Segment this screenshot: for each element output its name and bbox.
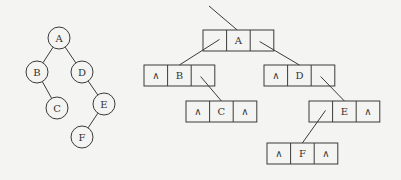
tree-edge-a-b [43, 47, 53, 63]
tree-node-label: E [100, 99, 107, 110]
rchild-null-symbol: ∧ [364, 106, 371, 117]
tree-node-b: B [26, 61, 48, 83]
data-field: A [234, 35, 243, 46]
tree-node-c: C [46, 97, 68, 119]
tree-edges [42, 47, 98, 128]
tree-node-label: C [53, 103, 61, 114]
lchild-null-symbol: ∧ [152, 70, 159, 81]
tree-node-d: D [71, 61, 93, 83]
root-pointer-line [209, 6, 237, 30]
tree-node-label: F [79, 132, 86, 143]
tree-edge-b-c [42, 82, 51, 99]
list-node-b: B∧ [144, 65, 215, 86]
tree-nodes: ABDCEF [26, 27, 115, 148]
rchild-pointer-a-d [260, 42, 300, 65]
tree-node-a: A [48, 27, 70, 49]
list-node-a: A [203, 30, 274, 51]
data-field: E [341, 106, 348, 117]
rchild-null-symbol: ∧ [322, 148, 329, 159]
lchild-null-symbol: ∧ [275, 148, 282, 159]
data-field: D [295, 70, 303, 81]
tree-node-label: B [33, 67, 40, 78]
lchild-null-symbol: ∧ [194, 106, 201, 117]
binary-tree-diagram: ABDCEF AB∧D∧C∧∧E∧F∧∧ [0, 0, 401, 180]
rchild-pointer-d-e [321, 77, 345, 101]
tree-edge-a-d [65, 47, 76, 63]
rchild-null-symbol: ∧ [241, 106, 248, 117]
list-node-d: D∧ [264, 65, 335, 86]
rchild-pointer-b-c [201, 77, 222, 101]
list-node-c: C∧∧ [186, 101, 257, 122]
lchild-null-symbol: ∧ [272, 70, 279, 81]
tree-edge-e-f [88, 113, 98, 128]
lchild-pointer-a-b [179, 39, 219, 65]
list-node-f: F∧∧ [267, 143, 338, 164]
lchild-pointer-e-f [302, 110, 325, 143]
tree-node-label: A [54, 33, 63, 44]
tree-node-e: E [93, 93, 115, 115]
data-field: F [299, 148, 306, 159]
linked-list-nodes: AB∧D∧C∧∧E∧F∧∧ [144, 30, 380, 164]
tree-node-f: F [71, 126, 93, 148]
data-field: B [176, 70, 183, 81]
tree-node-label: D [78, 67, 86, 78]
tree-edge-d-e [88, 81, 98, 95]
data-field: C [218, 106, 226, 117]
